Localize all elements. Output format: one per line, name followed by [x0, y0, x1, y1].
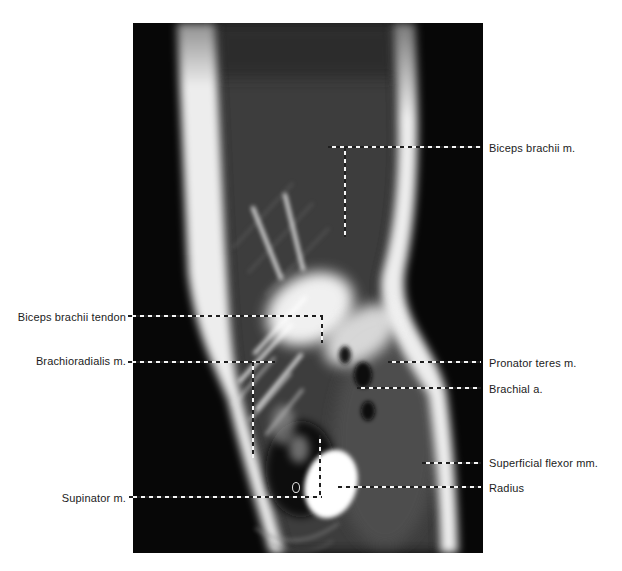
leader-line-radius — [338, 486, 481, 488]
anatomy-label-brachial-a: Brachial a. — [489, 383, 543, 395]
leader-line-biceps-brachii-m — [328, 146, 481, 148]
leader-line-supinator-m — [319, 435, 321, 497]
anatomy-label-biceps-brachii-tendon: Biceps brachii tendon — [18, 311, 126, 323]
leader-line-biceps-brachii-tendon — [321, 316, 323, 343]
leader-line-biceps-brachii-tendon — [128, 315, 323, 317]
anatomy-label-biceps-brachii-m: Biceps brachii m. — [489, 142, 575, 154]
leader-line-brachial-a — [357, 387, 481, 389]
anatomy-label-supinator-m: Supinator m. — [62, 492, 126, 504]
anatomy-label-brachioradialis-m: Brachioradialis m. — [36, 355, 126, 367]
leader-line-superficial-flexor-mm — [422, 462, 481, 464]
film-marker — [292, 482, 300, 493]
mri-rendering — [133, 23, 483, 553]
anatomy-label-pronator-teres-m: Pronator teres m. — [489, 357, 577, 369]
leader-line-biceps-brachii-m — [344, 147, 346, 237]
leader-line-pronator-teres-m — [388, 361, 481, 363]
mri-image — [133, 23, 483, 553]
anatomy-label-superficial-flexor-mm: Superficial flexor mm. — [489, 457, 598, 469]
figure: Biceps brachii tendonBrachioradialis m.S… — [0, 0, 622, 571]
leader-line-brachioradialis-m — [252, 362, 254, 458]
anatomy-label-radius: Radius — [489, 482, 524, 494]
leader-line-supinator-m — [129, 496, 322, 498]
